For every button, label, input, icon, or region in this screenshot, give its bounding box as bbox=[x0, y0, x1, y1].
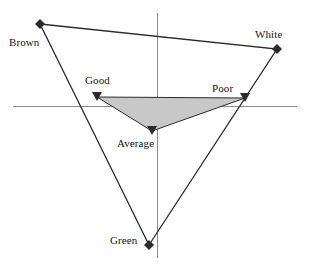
outer-triangle-attributes bbox=[40, 24, 277, 245]
inner-triangle-ratings bbox=[97, 97, 245, 131]
label-green: Green bbox=[110, 234, 137, 246]
label-white: White bbox=[255, 28, 282, 40]
plot-svg bbox=[0, 0, 312, 267]
vertex-marker-average bbox=[147, 126, 157, 135]
label-good: Good bbox=[85, 74, 110, 86]
label-brown: Brown bbox=[9, 36, 39, 48]
vertex-marker-brown bbox=[35, 19, 45, 29]
vertex-marker-green bbox=[144, 240, 154, 250]
label-average: Average bbox=[117, 137, 154, 149]
figure-canvas: Brown White Green Good Poor Average bbox=[0, 0, 312, 267]
vertex-marker-white bbox=[272, 44, 282, 54]
label-poor: Poor bbox=[212, 82, 233, 94]
